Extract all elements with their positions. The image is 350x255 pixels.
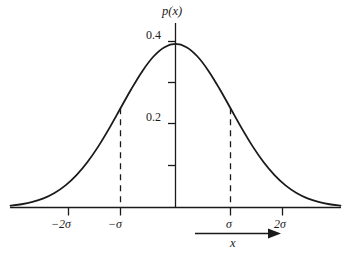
x-tick-label-plus-2sigma: 2σ	[274, 218, 286, 230]
x-tick-label-minus-sigma: −σ	[108, 218, 122, 230]
gaussian-distribution-figure: p(x) 0.4 0.2 −2σ −σ σ 2σ x	[0, 0, 350, 255]
x-axis-title: x	[230, 237, 236, 250]
y-tick-label-0-2: 0.2	[146, 111, 161, 123]
y-axis-title: p(x)	[162, 5, 182, 18]
x-tick-label-plus-sigma: σ	[226, 218, 232, 230]
x-tick-label-minus-2sigma: −2σ	[51, 218, 71, 230]
y-tick-label-0-4: 0.4	[146, 29, 161, 41]
